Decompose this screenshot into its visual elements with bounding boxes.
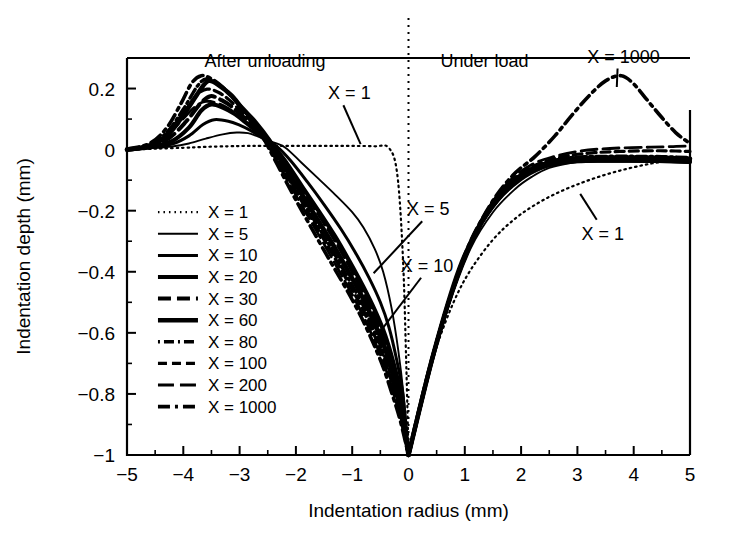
annotation-label: X = 1 [581,224,624,244]
x-tick-label: −1 [341,464,363,485]
indentation-profile-figure: −5−4−3−2−10123450.20−0.2−0.4−0.6−0.8−1In… [0,0,751,548]
legend-label: X = 20 [208,268,258,287]
annotation-label: X = 5 [407,199,450,219]
annotation-leader-line [379,278,421,333]
x-tick-label: 3 [572,464,583,485]
y-tick-label: 0.2 [89,79,115,100]
legend-label: X = 1000 [208,398,277,417]
legend-label: X = 1 [208,203,248,222]
region-label: After unloading [204,51,325,71]
x-tick-label: −5 [116,464,138,485]
legend-label: X = 5 [208,225,248,244]
region-label: Under load [440,51,528,71]
x-tick-label: 2 [516,464,527,485]
legend-label: X = 200 [208,376,267,395]
y-axis-title: Indentation depth (mm) [13,158,34,354]
legend-label: X = 10 [208,246,258,265]
legend-label: X = 80 [208,333,258,352]
chart-canvas: −5−4−3−2−10123450.20−0.2−0.4−0.6−0.8−1In… [0,0,751,548]
region-labels: After unloadingUnder load [204,51,528,71]
series-curve [409,156,691,455]
legend-label: X = 60 [208,311,258,330]
annotation-label: X = 10 [401,256,454,276]
y-tick-label: −0.2 [77,201,115,222]
x-tick-label: 1 [460,464,471,485]
series-curve [409,158,691,455]
series-curve [409,161,691,455]
x-tick-label: −3 [229,464,251,485]
annotation-leader-line [580,194,597,220]
annotation-leader-line [617,69,618,87]
legend-label: X = 30 [208,290,258,309]
x-tick-label: −4 [172,464,194,485]
y-tick-label: −0.8 [77,384,115,405]
y-tick-label: −1 [93,445,115,466]
annotation-leader-line [343,105,360,144]
y-tick-label: 0 [104,140,115,161]
x-axis-title: Indentation radius (mm) [308,500,509,521]
x-tick-label: 5 [685,464,696,485]
annotation-label: X = 1000 [587,47,660,67]
legend: X = 1X = 5X = 10X = 20X = 30X = 60X = 80… [158,203,277,416]
annotations: X = 1X = 5X = 10X = 1X = 1000 [328,47,660,333]
y-tick-label: −0.4 [77,262,115,283]
y-tick-label: −0.6 [77,323,115,344]
x-tick-label: 4 [628,464,639,485]
x-tick-label: 0 [403,464,414,485]
legend-label: X = 100 [208,354,267,373]
x-tick-label: −2 [285,464,307,485]
annotation-label: X = 1 [328,83,371,103]
